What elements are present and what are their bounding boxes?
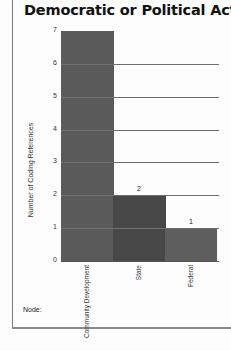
data-value-label: 2 <box>129 185 149 192</box>
bar-community-development <box>61 31 114 261</box>
bar-federal <box>165 228 217 261</box>
gridline <box>61 261 219 262</box>
y-tick-label: 3 <box>47 157 57 164</box>
gridline <box>61 228 219 229</box>
y-tick-label: 6 <box>47 59 57 66</box>
node-label: Node: <box>23 306 42 313</box>
plot-area: 0123456721Community DevelopmentStateFede… <box>0 0 231 351</box>
x-tick-label: Community Development <box>83 265 90 338</box>
y-tick-label: 1 <box>47 223 57 230</box>
y-tick-label: 2 <box>47 190 57 197</box>
gridline <box>61 64 219 65</box>
gridline <box>61 130 219 131</box>
y-tick-label: 4 <box>47 125 57 132</box>
gridline <box>61 162 219 163</box>
y-tick-label: 0 <box>47 256 57 263</box>
data-value-label: 1 <box>181 218 201 225</box>
gridline <box>61 97 219 98</box>
gridline <box>61 195 219 196</box>
y-axis-label: Number of Coding References <box>27 123 34 218</box>
x-tick-label: Federal <box>187 265 194 287</box>
y-tick-label: 7 <box>47 26 57 33</box>
y-tick-label: 5 <box>47 92 57 99</box>
x-tick-label: State <box>135 265 142 280</box>
chart-page: Democratic or Political Action 012345672… <box>0 0 231 351</box>
